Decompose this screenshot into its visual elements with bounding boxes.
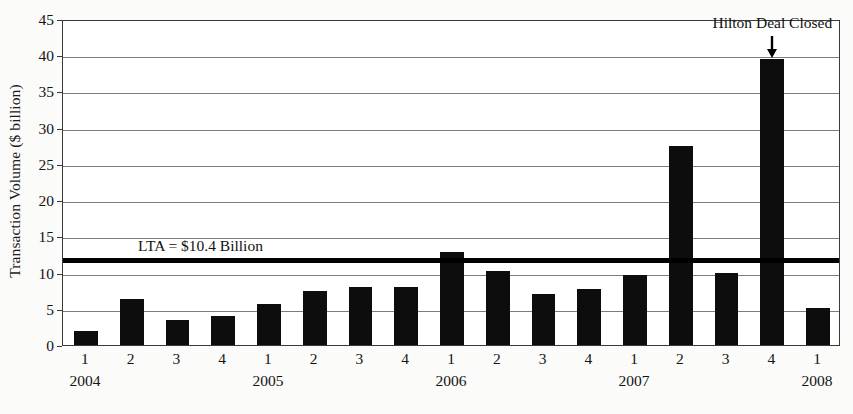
y-tick-label: 5	[14, 301, 54, 319]
bar	[349, 287, 373, 345]
bar	[394, 287, 418, 345]
y-tick-label: 15	[14, 228, 54, 246]
gridline	[63, 166, 839, 167]
gridline	[63, 93, 839, 94]
x-quarter-label: 4	[573, 350, 603, 368]
x-quarter-label: 2	[665, 350, 695, 368]
x-year-label: 2005	[238, 372, 298, 390]
plot-area: LTA = $10.4 Billion Hilton Deal Closed	[62, 20, 840, 346]
y-tick-label: 45	[14, 11, 54, 29]
bar	[211, 316, 235, 345]
x-quarter-label: 1	[70, 350, 100, 368]
x-quarter-label: 4	[207, 350, 237, 368]
bar	[486, 271, 510, 345]
y-tick-mark	[57, 346, 62, 347]
x-quarter-label: 1	[436, 350, 466, 368]
reference-line-label: LTA = $10.4 Billion	[138, 237, 263, 255]
x-year-label: 2007	[604, 372, 664, 390]
chart-page: Transaction Volume ($ billion) 051015202…	[0, 0, 853, 414]
bar	[715, 273, 739, 345]
bar	[577, 289, 601, 345]
x-axis-labels: 1234123412341234120042005200620072008	[62, 348, 840, 410]
x-year-label: 2006	[421, 372, 481, 390]
x-quarter-label: 2	[299, 350, 329, 368]
x-year-label: 2004	[55, 372, 115, 390]
bar	[74, 331, 98, 345]
bar	[623, 275, 647, 345]
x-quarter-label: 3	[344, 350, 374, 368]
bar	[303, 291, 327, 345]
x-quarter-label: 1	[802, 350, 832, 368]
x-year-label: 2008	[787, 372, 847, 390]
bar	[440, 252, 464, 345]
reference-line	[63, 258, 839, 263]
gridline	[63, 57, 839, 58]
x-quarter-label: 4	[390, 350, 420, 368]
bar	[760, 59, 784, 345]
x-quarter-label: 3	[161, 350, 191, 368]
y-tick-label: 0	[14, 337, 54, 355]
bar	[120, 299, 144, 345]
y-tick-label: 40	[14, 47, 54, 65]
x-quarter-label: 1	[253, 350, 283, 368]
x-quarter-label: 3	[528, 350, 558, 368]
bar	[532, 294, 556, 345]
y-tick-label: 10	[14, 265, 54, 283]
gridline	[63, 130, 839, 131]
annotation-label: Hilton Deal Closed	[713, 14, 833, 32]
bar	[257, 304, 281, 345]
y-tick-label: 25	[14, 156, 54, 174]
y-tick-label: 30	[14, 120, 54, 138]
x-quarter-label: 2	[116, 350, 146, 368]
y-tick-label: 20	[14, 192, 54, 210]
x-quarter-label: 2	[482, 350, 512, 368]
bar	[806, 308, 830, 345]
gridline	[63, 202, 839, 203]
bar	[669, 146, 693, 345]
down-arrow-icon	[765, 36, 779, 58]
x-quarter-label: 1	[619, 350, 649, 368]
x-quarter-label: 3	[711, 350, 741, 368]
bar	[166, 320, 190, 345]
y-tick-label: 35	[14, 83, 54, 101]
x-quarter-label: 4	[756, 350, 786, 368]
